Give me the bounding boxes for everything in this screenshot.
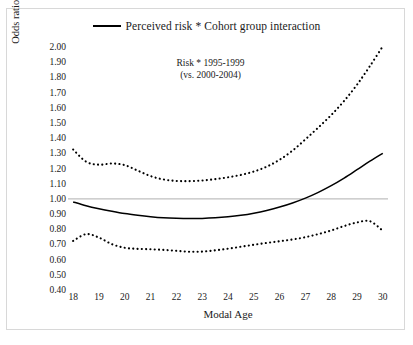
x-axis-tick-label: 30 xyxy=(378,292,388,302)
x-axis-tick-label: 19 xyxy=(94,292,104,302)
y-axis-tick-labels: 0.400.500.600.700.800.901.001.101.201.30… xyxy=(36,47,66,290)
y-axis-tick-label: 1.10 xyxy=(36,179,66,189)
y-axis-tick-label: 1.00 xyxy=(36,194,66,204)
x-axis-title: Modal Age xyxy=(68,308,388,320)
y-axis-tick-label: 0.70 xyxy=(36,239,66,249)
y-axis-tick-label: 1.50 xyxy=(36,118,66,128)
x-axis-tick-label: 28 xyxy=(326,292,336,302)
y-axis-tick-label: 0.40 xyxy=(36,285,66,295)
lower-confidence-curve xyxy=(73,221,383,252)
legend-entry: Perceived risk * Cohort group interactio… xyxy=(93,20,321,32)
y-axis-tick-label: 1.80 xyxy=(36,72,66,82)
y-axis-tick-label: 1.70 xyxy=(36,88,66,98)
x-axis-tick-label: 18 xyxy=(68,292,78,302)
y-axis-tick-label: 1.90 xyxy=(36,57,66,67)
upper-confidence-curve xyxy=(73,46,383,181)
x-axis-tick-label: 23 xyxy=(197,292,207,302)
y-axis-tick-label: 0.60 xyxy=(36,255,66,265)
x-axis-tick-label: 22 xyxy=(172,292,182,302)
y-axis-tick-label: 2.00 xyxy=(36,42,66,52)
x-axis-tick-label: 21 xyxy=(146,292,156,302)
legend-entry-label: Perceived risk * Cohort group interactio… xyxy=(126,20,321,32)
y-axis-tick-label: 0.50 xyxy=(36,270,66,280)
plot-area xyxy=(68,47,388,290)
x-axis-tick-labels: 18192021222324252627282930 xyxy=(68,292,388,308)
chart-figure: Perceived risk * Cohort group interactio… xyxy=(0,0,413,345)
legend-line-swatch-icon xyxy=(93,25,121,27)
y-axis-tick-label: 1.30 xyxy=(36,148,66,158)
y-axis-tick-label: 1.20 xyxy=(36,164,66,174)
x-axis-tick-label: 24 xyxy=(223,292,233,302)
plot-svg xyxy=(68,47,388,290)
y-axis-tick-label: 1.40 xyxy=(36,133,66,143)
y-axis-tick-label: 0.80 xyxy=(36,224,66,234)
x-axis-tick-label: 29 xyxy=(352,292,362,302)
y-axis-tick-label: 1.60 xyxy=(36,103,66,113)
x-axis-tick-label: 26 xyxy=(275,292,285,302)
chart-legend: Perceived risk * Cohort group interactio… xyxy=(0,17,413,32)
x-axis-tick-label: 25 xyxy=(249,292,259,302)
x-axis-tick-label: 27 xyxy=(301,292,311,302)
x-axis-tick-label: 20 xyxy=(120,292,130,302)
y-axis-tick-label: 0.90 xyxy=(36,209,66,219)
y-axis-title: Odds ratio of any past 2 - week binge dr… xyxy=(8,0,24,64)
